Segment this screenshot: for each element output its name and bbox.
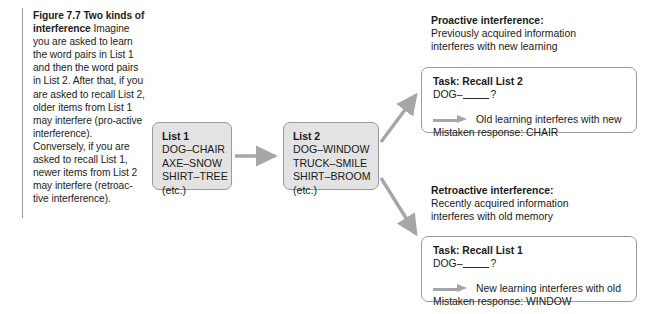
list1-item: SHIRT–TREE <box>162 170 222 183</box>
list2-item: (etc.) <box>293 184 369 197</box>
retroactive-prompt-prefix: DOG– <box>433 258 462 269</box>
retroactive-task-box: Task: Recall List 1 DOG–? New learning i… <box>421 236 637 302</box>
retroactive-heading: Retroactive interference: <box>431 184 646 197</box>
proactive-prompt-suffix: ? <box>490 89 496 100</box>
proactive-heading-block: Proactive interference: Previously acqui… <box>431 14 646 54</box>
proactive-heading: Proactive interference: <box>431 14 646 27</box>
list2-item: TRUCK–SMILE <box>293 157 369 170</box>
retroactive-description-line2: interferes with old memory <box>431 210 646 223</box>
proactive-result-row: Old learning interferes with new <box>433 113 626 126</box>
caption-vertical-rule <box>22 8 23 218</box>
arrow-list2-to-proactive-task <box>381 95 416 142</box>
list1-item: AXE–SNOW <box>162 157 222 170</box>
list2-item: SHIRT–BROOM <box>293 170 369 183</box>
retroactive-task-prompt: DOG–? <box>433 257 626 270</box>
right-arrow-icon <box>433 115 467 124</box>
list2-title: List 2 <box>293 130 369 143</box>
proactive-result-text: Old learning interferes with new <box>476 113 622 126</box>
proactive-description-line1: Previously acquired information <box>431 27 646 40</box>
retroactive-task-title: Task: Recall List 1 <box>433 244 626 257</box>
list2-item: DOG–WINDOW <box>293 143 369 156</box>
list2-box: List 2 DOG–WINDOW TRUCK–SMILE SHIRT–BROO… <box>283 122 379 190</box>
figure-caption-body: Imagine you are asked to learn the word … <box>33 23 145 204</box>
list1-item: DOG–CHAIR <box>162 143 222 156</box>
retroactive-prompt-suffix: ? <box>490 258 496 269</box>
right-arrow-icon <box>433 284 467 293</box>
proactive-task-box: Task: Recall List 2 DOG–? Old learning i… <box>421 67 637 133</box>
proactive-task-title: Task: Recall List 2 <box>433 75 626 88</box>
proactive-description-line2: interferes with new learning <box>431 40 646 53</box>
retroactive-mistaken-response: Mistaken response: WINDOW <box>433 295 626 308</box>
list1-item: (etc.) <box>162 184 222 197</box>
retroactive-result-text: New learning interferes with old <box>476 282 621 295</box>
proactive-prompt-prefix: DOG– <box>433 89 462 100</box>
figure-canvas: Figure 7.7 Two kinds of interference Ima… <box>0 0 655 314</box>
proactive-prompt-blank <box>463 98 489 99</box>
arrow-list2-to-retroactive-task <box>381 178 416 234</box>
retroactive-heading-block: Retroactive interference: Recently acqui… <box>431 184 646 224</box>
list1-title: List 1 <box>162 130 222 143</box>
list1-box: List 1 DOG–CHAIR AXE–SNOW SHIRT–TREE (et… <box>152 122 232 190</box>
proactive-task-prompt: DOG–? <box>433 88 626 101</box>
retroactive-description-line1: Recently acquired information <box>431 197 646 210</box>
proactive-mistaken-response: Mistaken response: CHAIR <box>433 126 626 139</box>
retroactive-result-row: New learning interferes with old <box>433 282 626 295</box>
retroactive-prompt-blank <box>463 267 489 268</box>
figure-caption: Figure 7.7 Two kinds of interference Ima… <box>33 9 145 205</box>
